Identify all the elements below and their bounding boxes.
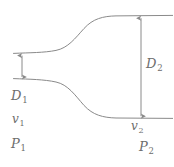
label-inlet-velocity-symbol: v: [12, 112, 19, 126]
label-outlet-diameter: D2: [146, 57, 162, 70]
label-inlet-pressure-symbol: P: [11, 136, 20, 151]
label-outlet-diameter-symbol: D: [146, 56, 157, 71]
label-outlet-velocity-subscript: 2: [138, 126, 143, 135]
label-outlet-pressure-subscript: 2: [148, 146, 153, 156]
label-outlet-velocity: v2: [131, 120, 143, 132]
label-outlet-velocity-symbol: v: [131, 119, 138, 133]
label-inlet-diameter-symbol: D: [11, 88, 22, 103]
label-outlet-pressure: P2: [139, 140, 153, 153]
label-inlet-velocity: v1: [12, 113, 24, 125]
label-inlet-pressure: P1: [11, 137, 25, 150]
label-outlet-pressure-symbol: P: [139, 139, 148, 154]
label-inlet-diameter-subscript: 1: [22, 95, 27, 105]
label-outlet-diameter-subscript: 2: [157, 63, 162, 73]
label-inlet-pressure-subscript: 1: [20, 143, 25, 153]
label-inlet-velocity-subscript: 1: [19, 119, 24, 128]
lower-pipe-wall: [14, 79, 174, 119]
venturi-diagram: D1 v1 P1 D2 v2 P2: [0, 0, 173, 167]
upper-pipe-wall: [14, 15, 174, 53]
label-inlet-diameter: D1: [11, 89, 27, 102]
